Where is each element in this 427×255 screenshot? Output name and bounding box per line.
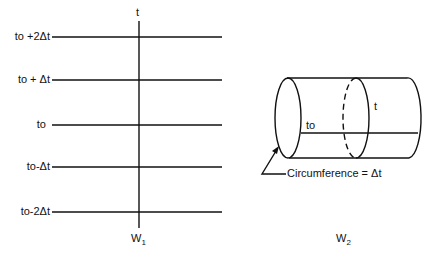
- t-label-cylinder: t: [374, 100, 377, 112]
- spacetime-diagram: [0, 0, 427, 255]
- mid-circle-back: [343, 78, 356, 158]
- time-label-minus-1: to-Δt: [0, 160, 50, 172]
- start-time-label: to: [306, 119, 315, 131]
- mid-circle-front: [356, 78, 369, 158]
- time-label-zero: to: [0, 118, 46, 130]
- w1-subscript: 1: [141, 238, 145, 247]
- time-label-plus-1: to + Δt: [0, 73, 50, 85]
- space-w1-label: W1: [131, 232, 146, 247]
- cylinder-left-end: [275, 78, 301, 158]
- space-w2-label: W2: [336, 232, 351, 247]
- time-label-plus-2: to +2Δt: [0, 30, 50, 42]
- arrowhead-icon: [272, 146, 279, 154]
- time-label-minus-2: to-2Δt: [0, 205, 50, 217]
- w2-subscript: 2: [346, 238, 350, 247]
- t-axis-label: t: [136, 6, 139, 18]
- circumference-annotation: Circumference = Δt: [287, 167, 381, 179]
- w1-letter: W: [131, 232, 141, 244]
- cylinder-right-end: [407, 78, 421, 158]
- w2-letter: W: [336, 232, 346, 244]
